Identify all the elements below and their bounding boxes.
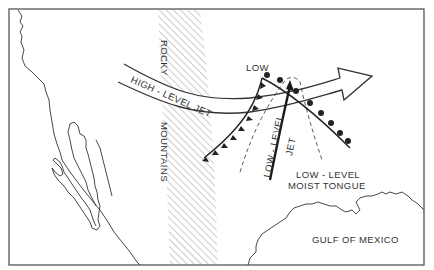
weather-map-svg: ROCKY MOUNTAINS HIGH - LEVEL JET LOW LOW… — [0, 0, 434, 270]
diagram-canvas: ROCKY MOUNTAINS HIGH - LEVEL JET LOW LOW… — [0, 0, 434, 270]
label-moist-tongue-1: LOW - LEVEL — [296, 169, 360, 180]
label-rocky: ROCKY — [159, 40, 170, 76]
label-low: LOW — [246, 62, 269, 73]
label-gulf-of-mexico: GULF OF MEXICO — [312, 234, 399, 245]
label-moist-tongue-2: MOIST TONGUE — [288, 180, 366, 191]
label-mountains: MOUNTAINS — [159, 122, 170, 182]
